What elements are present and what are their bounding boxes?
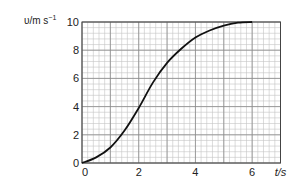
y-tick-label: 6 — [73, 72, 79, 84]
x-tick-label: 6 — [249, 166, 255, 178]
velocity-time-chart: 02468100246t/s — [0, 0, 297, 180]
x-tick-label: 4 — [192, 166, 198, 178]
x-axis-label: t/s — [275, 166, 287, 178]
y-tick-label: 4 — [73, 101, 79, 113]
x-tick-label: 0 — [82, 166, 88, 178]
y-tick-label: 0 — [73, 157, 79, 169]
y-tick-label: 8 — [73, 44, 79, 56]
x-tick-label: 2 — [136, 166, 142, 178]
y-tick-label: 10 — [67, 16, 79, 28]
plot-frame — [82, 22, 281, 163]
y-tick-label: 2 — [73, 129, 79, 141]
